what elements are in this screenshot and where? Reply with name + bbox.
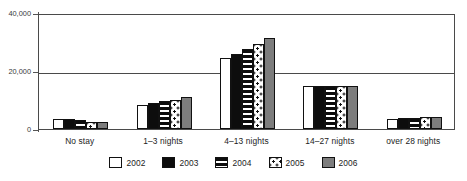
legend-item-2004[interactable]: 2004 [215,157,251,168]
bar-group [53,15,108,129]
bar-2002-no-stay [53,119,64,129]
bar-2003-over-28-nights [398,118,409,129]
bar-2005-14-27-nights [336,86,347,129]
bar-2005-no-stay [86,122,97,129]
x-axis-label: over 28 nights [372,136,455,146]
legend-label: 2006 [339,158,358,168]
bar-2002-1-3-nights [137,105,148,129]
bar-2005-4-13-nights [253,44,264,129]
legend-swatch-icon [109,157,122,168]
bar-2002-4-13-nights [220,58,231,129]
legend-swatch-icon [322,157,335,168]
x-axis-label: 14–27 nights [288,136,371,146]
bar-2004-14-27-nights [325,86,336,129]
bar-2006-14-27-nights [347,86,358,129]
x-axis-label: 1–3 nights [121,136,204,146]
bar-2004-1-3-nights [159,101,170,129]
bar-2003-14-27-nights [314,86,325,129]
legend-label: 2002 [126,158,145,168]
bar-group [220,15,275,129]
bar-2004-4-13-nights [242,49,253,129]
y-axis-tick-label: 0 [0,125,31,134]
legend-item-2002[interactable]: 2002 [109,157,145,168]
bar-2006-over-28-nights [431,117,442,129]
bar-2003-4-13-nights [231,54,242,129]
bar-chart: 020,00040,000 No stay1–3 nights4–13 nigh… [0,0,467,181]
bar-group [137,15,192,129]
plot-area [38,14,455,130]
bar-2006-4-13-nights [264,38,275,129]
legend-label: 2003 [179,158,198,168]
y-axis-tick-label: 20,000 [0,67,31,76]
bar-2004-over-28-nights [409,118,420,129]
bar-2002-over-28-nights [387,119,398,129]
x-axis-label: No stay [38,136,121,146]
legend-label: 2004 [232,158,251,168]
legend-item-2005[interactable]: 2005 [269,157,305,168]
chart-legend: 20022003200420052006 [0,157,467,168]
legend-label: 2005 [286,158,305,168]
bar-2003-no-stay [64,119,75,129]
legend-swatch-icon [162,157,175,168]
legend-swatch-icon [269,157,282,168]
legend-swatch-icon [215,157,228,168]
legend-item-2003[interactable]: 2003 [162,157,198,168]
bar-2004-no-stay [75,120,86,129]
bar-2006-1-3-nights [181,97,192,129]
bar-2006-no-stay [97,122,108,129]
bar-2003-1-3-nights [148,103,159,129]
legend-item-2006[interactable]: 2006 [322,157,358,168]
bar-group [303,15,358,129]
bar-2005-over-28-nights [420,117,431,129]
bar-group [387,15,442,129]
bar-2002-14-27-nights [303,86,314,129]
x-axis-label: 4–13 nights [205,136,288,146]
bar-2005-1-3-nights [170,100,181,129]
y-axis-tick-label: 40,000 [0,9,31,18]
